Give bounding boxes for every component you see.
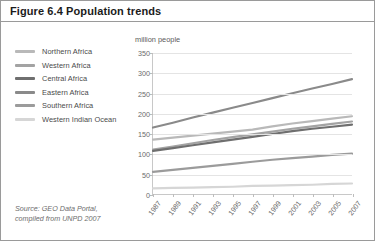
y-axis-tick-label: 0	[146, 191, 150, 200]
gridline	[153, 53, 352, 54]
x-tick-mark	[353, 194, 354, 197]
x-axis-tick-label: 1989	[166, 199, 183, 217]
legend-item: Southern Africa	[15, 99, 133, 113]
source-note: Source: GEO Data Portal, compiled from U…	[15, 204, 101, 223]
legend-item-label: Northern Africa	[42, 47, 92, 56]
y-tick-mark	[150, 53, 153, 54]
gridline	[153, 94, 352, 95]
gridline	[153, 114, 352, 115]
y-axis-tick-label: 300	[138, 69, 150, 78]
gridline	[153, 154, 352, 155]
x-tick-mark	[293, 194, 294, 197]
x-axis-tick-label: 2001	[286, 199, 303, 217]
x-axis-tick-label: 2003	[306, 199, 323, 217]
y-tick-mark	[150, 154, 153, 155]
legend-swatch-icon	[15, 64, 35, 67]
chart-legend: Northern AfricaWestern AfricaCentral Afr…	[15, 45, 133, 126]
gridline	[153, 134, 352, 135]
legend-swatch-icon	[15, 77, 35, 80]
figure-title-bar: Figure 6.4 Population trends	[1, 1, 374, 22]
x-axis-tick-label: 1999	[266, 199, 283, 217]
x-tick-mark	[213, 194, 214, 197]
plot-area: 0501001502002503003501987198919911993199…	[152, 53, 352, 195]
legend-item: Western Africa	[15, 59, 133, 73]
series-line	[153, 154, 352, 172]
y-tick-mark	[150, 114, 153, 115]
legend-item: Northern Africa	[15, 45, 133, 59]
legend-item-label: Southern Africa	[42, 101, 93, 110]
legend-item-label: Central Africa	[42, 74, 87, 83]
legend-swatch-icon	[15, 91, 35, 94]
x-tick-mark	[233, 194, 234, 197]
page-title: Figure 6.4 Population trends	[10, 5, 161, 17]
y-axis-tick-label: 350	[138, 49, 150, 58]
x-axis-tick-label: 1993	[206, 199, 223, 217]
x-axis-tick-label: 2007	[346, 199, 363, 217]
y-tick-mark	[150, 73, 153, 74]
legend-swatch-icon	[15, 50, 35, 53]
x-tick-mark	[333, 194, 334, 197]
gridline	[153, 175, 352, 176]
x-axis-tick-label: 1987	[146, 199, 163, 217]
legend-item-label: Western Africa	[42, 61, 91, 70]
figure-container: Figure 6.4 Population trends Northern Af…	[0, 0, 375, 241]
y-axis-tick-label: 200	[138, 109, 150, 118]
x-tick-mark	[193, 194, 194, 197]
source-line-2: compiled from UNPD 2007	[15, 214, 101, 224]
y-tick-mark	[150, 134, 153, 135]
source-line-1: Source: GEO Data Portal,	[15, 204, 101, 214]
legend-item-label: Western Indian Ocean	[42, 115, 116, 124]
x-tick-mark	[153, 194, 154, 197]
y-tick-mark	[150, 94, 153, 95]
y-axis-tick-label: 100	[138, 150, 150, 159]
y-axis-title: million people	[135, 35, 180, 44]
series-line	[153, 184, 352, 189]
x-axis-tick-label: 1995	[226, 199, 243, 217]
x-axis-tick-label: 2005	[326, 199, 343, 217]
x-axis-tick-label: 1991	[186, 199, 203, 217]
x-tick-mark	[313, 194, 314, 197]
legend-swatch-icon	[15, 118, 35, 121]
legend-item: Central Africa	[15, 72, 133, 86]
y-axis-tick-label: 150	[138, 130, 150, 139]
x-tick-mark	[273, 194, 274, 197]
x-tick-mark	[253, 194, 254, 197]
legend-item: Eastern Africa	[15, 86, 133, 100]
y-axis-tick-label: 250	[138, 89, 150, 98]
legend-item-label: Eastern Africa	[42, 88, 89, 97]
legend-item: Western Indian Ocean	[15, 113, 133, 127]
x-tick-mark	[173, 194, 174, 197]
legend-swatch-icon	[15, 104, 35, 107]
y-axis-tick-label: 50	[142, 170, 150, 179]
x-axis-tick-label: 1997	[246, 199, 263, 217]
y-tick-mark	[150, 175, 153, 176]
gridline	[153, 73, 352, 74]
